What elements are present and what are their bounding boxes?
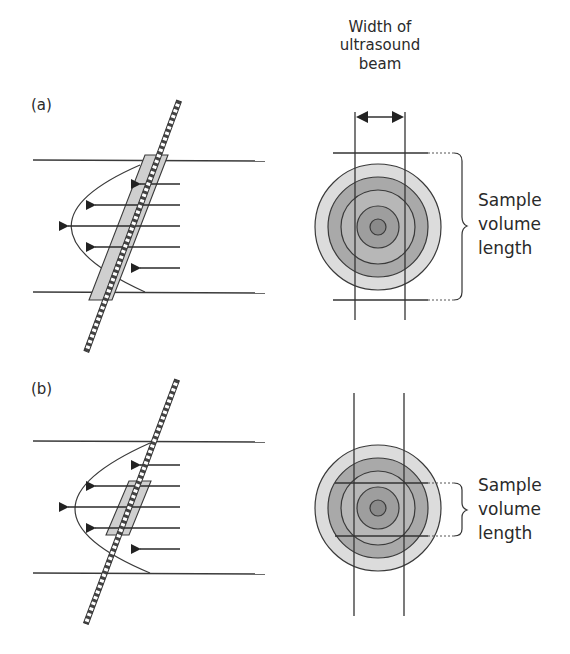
panel-a-cross-section: [315, 111, 467, 320]
panel-a-vessel: [33, 100, 265, 352]
panel-label-b: (b): [31, 380, 52, 398]
svl-a-line-3: length: [478, 236, 542, 260]
sample-volume-brace: [454, 483, 467, 536]
beam-label-line-2: ultrasound: [320, 36, 440, 54]
sample-volume-length-label-a: Sample volume length: [478, 188, 542, 260]
ultrasound-beam-line: [84, 379, 180, 624]
beam-width-arrow-left: [356, 111, 368, 123]
svl-b-line-1: Sample: [478, 473, 542, 497]
diagram-canvas: [0, 0, 570, 654]
panel-label-a: (a): [31, 96, 52, 114]
velocity-arrows: [68, 465, 180, 549]
panel-b-cross-section: [315, 393, 467, 616]
beam-width-arrow-right: [392, 111, 404, 123]
svl-b-line-3: length: [478, 521, 542, 545]
vessel-wall-bottom: [33, 292, 265, 293]
beam-label-line-1: Width of: [320, 18, 440, 36]
sample-volume-box: [89, 155, 168, 300]
svl-a-line-2: volume: [478, 212, 542, 236]
svl-a-line-1: Sample: [478, 188, 542, 212]
sample-volume-brace: [454, 153, 467, 300]
vessel-wall-top: [33, 441, 265, 442]
svl-b-line-2: volume: [478, 497, 542, 521]
panel-b-vessel: [33, 379, 265, 624]
beam-width-label: Width of ultrasound beam: [320, 18, 440, 73]
beam-label-line-3: beam: [320, 55, 440, 73]
sample-volume-length-label-b: Sample volume length: [478, 473, 542, 545]
